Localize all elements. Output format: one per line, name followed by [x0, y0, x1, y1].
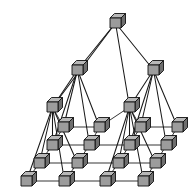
cube-node — [113, 154, 129, 169]
cube-front-face — [84, 140, 95, 150]
cube-node — [58, 118, 74, 133]
cube-node — [135, 118, 151, 133]
cube-front-face — [161, 140, 172, 150]
cube-front-face — [59, 176, 70, 186]
cube-node — [124, 98, 140, 113]
cube-front-face — [124, 140, 135, 150]
cube-node — [72, 61, 88, 76]
cube-front-face — [47, 140, 58, 150]
cube-node — [100, 172, 116, 187]
cube-front-face — [58, 122, 69, 132]
cube-front-face — [34, 158, 45, 168]
cube-front-face — [148, 65, 159, 75]
cube-front-face — [21, 176, 32, 186]
cube-node-layer — [21, 14, 188, 187]
cube-front-face — [138, 176, 149, 186]
cube-front-face — [124, 102, 135, 112]
cube-front-face — [113, 158, 124, 168]
cube-front-face — [47, 102, 58, 112]
cube-node — [124, 136, 140, 151]
cube-front-face — [172, 122, 183, 132]
tree-edge-11 — [154, 70, 178, 127]
cube-front-face — [72, 65, 83, 75]
cube-front-face — [150, 158, 161, 168]
tree-edge-13 — [154, 70, 167, 145]
cube-node — [150, 154, 166, 169]
cube-node — [84, 136, 100, 151]
cube-node — [110, 14, 126, 29]
cube-node — [138, 172, 154, 187]
cube-node — [34, 154, 50, 169]
cube-node — [59, 172, 75, 187]
tree-edge-21 — [130, 107, 156, 163]
cube-node — [21, 172, 37, 187]
network-topology-canvas — [0, 0, 193, 195]
cube-node — [172, 118, 188, 133]
cube-front-face — [100, 176, 111, 186]
cube-node — [47, 98, 63, 113]
cube-front-face — [135, 122, 146, 132]
pyramid-network-figure: Hierarchical pyramid cube network topolo… — [0, 0, 193, 195]
tree-edge-1 — [116, 23, 154, 70]
tree-edge-8 — [78, 70, 90, 145]
tree-edge-6 — [78, 70, 100, 127]
cube-front-face — [94, 122, 105, 132]
cube-node — [47, 136, 63, 151]
cube-node — [161, 136, 177, 151]
cube-node — [94, 118, 110, 133]
cube-front-face — [110, 18, 121, 28]
cube-front-face — [72, 158, 83, 168]
tree-edge-3 — [116, 23, 130, 107]
cube-node — [72, 154, 88, 169]
cube-node — [148, 61, 164, 76]
